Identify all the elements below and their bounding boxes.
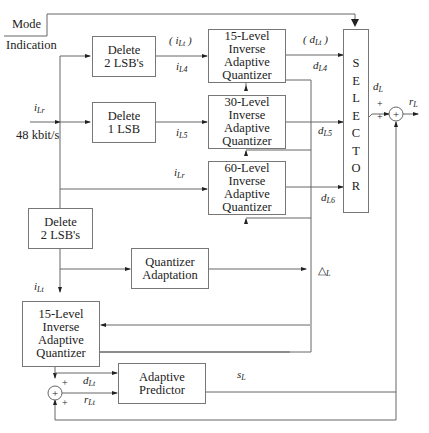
iaq-30-level-block: 30-Level Inverse Adaptive Quantizer [208, 95, 286, 149]
iaq-15-level-block-bottom: 15-Level Inverse Adaptive Quantizer [22, 301, 100, 367]
selector-letter: L [352, 90, 360, 108]
signal-delta-l: △L [318, 264, 330, 278]
selector-letter: O [351, 160, 360, 178]
signal-dl4: dL4 [313, 59, 327, 73]
iaq-60-level-block: 60-Level Inverse Adaptive Quantizer [208, 161, 286, 215]
signal-il4: iL4 [176, 60, 188, 74]
signal-il5: iL5 [176, 126, 188, 140]
signal-rlt: rLt [84, 393, 95, 407]
svg-text:+: + [393, 108, 399, 120]
signal-dlt: dLt [83, 374, 95, 388]
adder-bottom-plus-top: + [62, 377, 68, 388]
quantizer-adaptation-block: Quantizer Adaptation [131, 248, 209, 289]
svg-text:+: + [52, 387, 58, 399]
adder-plus-top: + [377, 98, 383, 109]
signal-ilt-paren: ( iLt ) [169, 34, 192, 48]
signal-sl: sL [237, 368, 246, 382]
signal-ilr-mid: iLr [174, 166, 185, 180]
signal-ilt: iLt [34, 280, 44, 294]
iaq-15-level-block-top: 15-Level Inverse Adaptive Quantizer [208, 29, 286, 83]
adder-bottom-plus-bottom: + [62, 397, 68, 408]
signal-rl: rL [409, 95, 418, 109]
input-signal-label: iLr [34, 101, 45, 115]
signal-dl: dL [373, 80, 383, 94]
selector-letter: C [352, 125, 360, 143]
selector-block: S E L E C T O R [343, 29, 369, 213]
delete-2-lsb-block-bottom: Delete 2 LSB's [28, 208, 93, 249]
adaptive-predictor-block: Adaptive Predictor [118, 363, 206, 404]
delete-1-lsb-block: Delete 1 LSB [92, 102, 156, 143]
signal-dl6: dL6 [321, 191, 335, 205]
selector-letter: S [353, 55, 360, 73]
selector-letter: R [352, 178, 360, 196]
indication-label: Indication [6, 38, 57, 53]
delete-2-lsb-block-top: Delete 2 LSB's [92, 36, 156, 77]
signal-dl5: dL5 [318, 124, 332, 138]
mode-label: Mode [12, 17, 41, 32]
selector-letter: E [352, 73, 360, 91]
selector-letter: T [352, 143, 360, 161]
selector-letter: E [352, 108, 360, 126]
input-rate-label: 48 kbit/s [16, 128, 59, 143]
signal-dlt-paren: ( dLt ) [303, 33, 328, 47]
adder-plus-bottom: + [377, 111, 383, 122]
